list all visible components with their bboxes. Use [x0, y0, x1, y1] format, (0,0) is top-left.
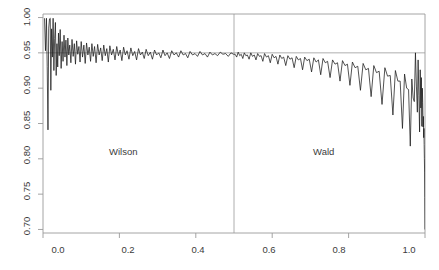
x-tick-label-06: 0.6 [262, 244, 275, 255]
x-tick-label-08: 0.8 [332, 244, 345, 255]
y-tick-label-080: 0.80 [21, 146, 32, 165]
y-tick-label-090: 0.90 [21, 76, 32, 95]
x-tick-label-04: 0.4 [191, 244, 204, 255]
coverage-plot: 1.00 0.95 0.90 0.85 0.80 0.75 0.70 0.0 0… [0, 0, 439, 270]
panel-label-wald: Wald [313, 146, 334, 157]
chart-container: 1.00 0.95 0.90 0.85 0.80 0.75 0.70 0.0 0… [0, 0, 439, 270]
y-tick-label-085: 0.85 [21, 111, 32, 130]
x-tick-label-00: 0.0 [51, 244, 64, 255]
y-axis-tick-labels: 1.00 0.95 0.90 0.85 0.80 0.75 0.70 [21, 8, 32, 236]
y-tick-label-070: 0.70 [21, 217, 32, 236]
y-tick-label-095: 0.95 [21, 41, 32, 60]
x-tick-label-10: 1.0 [402, 244, 415, 255]
y-tick-label-075: 0.75 [21, 182, 32, 201]
y-tick-label-100: 1.00 [21, 8, 32, 27]
x-tick-label-02: 0.2 [121, 244, 134, 255]
panel-label-wilson: Wilson [109, 146, 138, 157]
